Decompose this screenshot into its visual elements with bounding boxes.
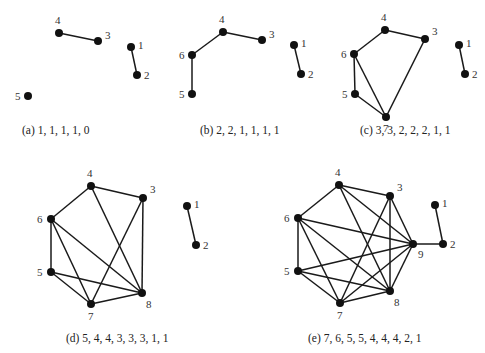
edges [298, 185, 443, 303]
vertex-label: 3 [105, 29, 111, 41]
edge-3-7 [340, 196, 390, 303]
vertex-label: 2 [144, 69, 150, 81]
vertex-7 [87, 300, 95, 308]
vertex-label: 4 [219, 13, 225, 25]
vertex-label: 6 [37, 213, 43, 225]
edge-4-8 [91, 186, 142, 293]
edge-3-7 [386, 39, 425, 117]
edge-1-2 [459, 45, 465, 74]
edge-6-5 [354, 54, 355, 94]
vertex-1 [455, 41, 463, 49]
vertex-9 [409, 240, 417, 248]
vertex-1 [290, 41, 298, 49]
vertex-6 [350, 50, 358, 58]
vertex-label: 9 [418, 248, 424, 260]
edges [354, 30, 465, 117]
vertex-label: 4 [381, 11, 387, 23]
edge-4-8 [339, 185, 390, 291]
vertex-label: 8 [394, 296, 400, 308]
vertex-5 [294, 267, 302, 275]
vertex-label: 3 [269, 28, 275, 40]
edge-4-3 [385, 30, 425, 39]
vertex-label: 4 [87, 167, 93, 179]
edge-3-9 [390, 196, 413, 244]
edge-1-2 [294, 45, 301, 74]
vertex-label: 5 [179, 88, 185, 100]
vertex-3 [139, 194, 147, 202]
edges [51, 186, 196, 304]
vertex-label: 5 [284, 265, 290, 277]
edge-4-6 [298, 185, 339, 218]
vertex-label: 2 [308, 68, 314, 80]
edge-4-6 [354, 30, 385, 54]
edge-6-7 [354, 54, 386, 117]
edge-4-3 [223, 32, 262, 40]
vertex-6 [294, 214, 302, 222]
vertex-2 [297, 70, 305, 78]
vertex-label: 5 [37, 266, 43, 278]
vertex-2 [133, 71, 141, 79]
vertex-8 [138, 289, 146, 297]
edge-6-7 [51, 219, 91, 304]
edge-4-3 [91, 186, 143, 198]
edges [192, 32, 301, 94]
vertex-1 [127, 43, 135, 51]
panel-caption: (e) 7, 6, 5, 5, 4, 4, 4, 2, 1 [308, 332, 422, 345]
vertex-label: 2 [472, 68, 478, 80]
edge-5-7 [355, 94, 386, 117]
vertex-label: 7 [337, 309, 343, 321]
vertex-label: 5 [15, 90, 21, 102]
vertex-3 [94, 37, 102, 45]
vertex-5 [351, 90, 359, 98]
vertex-label: 4 [55, 14, 61, 26]
vertex-4 [55, 29, 63, 37]
nodes: 43125 [15, 14, 150, 102]
edge-8-9 [390, 244, 413, 291]
edge-4-6 [51, 186, 91, 219]
vertex-3 [258, 36, 266, 44]
panel-e: 436578912 (e) 7, 6, 5, 5, 4, 4, 4, 2, 1 [284, 166, 456, 345]
vertex-4 [219, 28, 227, 36]
panel-d: 43657812 (d) 5, 4, 4, 3, 3, 3, 1, 1 [37, 167, 209, 345]
edge-1-2 [187, 206, 196, 245]
vertex-label: 6 [284, 212, 290, 224]
vertex-label: 6 [179, 49, 185, 61]
vertex-4 [381, 26, 389, 34]
vertex-2 [461, 70, 469, 78]
vertex-1 [431, 201, 439, 209]
nodes: 4365712 [341, 11, 478, 134]
vertex-label: 3 [432, 25, 438, 37]
vertex-label: 3 [150, 183, 156, 195]
panel-caption: (c) 3, 3, 2, 2, 2, 1, 1 [360, 124, 451, 137]
panel-caption: (d) 5, 4, 4, 3, 3, 3, 1, 1 [66, 332, 169, 345]
vertex-label: 6 [341, 48, 347, 60]
vertex-label: 3 [397, 181, 403, 193]
edge-4-3 [59, 33, 98, 41]
vertex-label: 5 [342, 88, 348, 100]
panel-caption: (b) 2, 2, 1, 1, 1, 1 [200, 124, 280, 137]
vertex-label: 4 [335, 166, 341, 178]
vertex-3 [386, 192, 394, 200]
edge-1-2 [435, 205, 443, 244]
vertex-label: 1 [466, 37, 472, 49]
vertex-6 [47, 215, 55, 223]
panel-caption: (a) 1, 1, 1, 1, 0 [22, 124, 90, 137]
vertex-5 [24, 92, 32, 100]
vertex-label: 1 [301, 37, 307, 49]
nodes: 436512 [179, 13, 314, 100]
panel-b: 436512 (b) 2, 2, 1, 1, 1, 1 [179, 13, 314, 137]
vertex-label: 1 [442, 197, 448, 209]
vertex-3 [421, 35, 429, 43]
vertex-label: 1 [194, 198, 200, 210]
vertex-2 [439, 240, 447, 248]
vertex-label: 2 [203, 239, 209, 251]
vertex-7 [382, 113, 390, 121]
edge-3-8 [142, 198, 143, 293]
edge-6-7 [298, 218, 340, 303]
vertex-label: 7 [88, 310, 94, 322]
vertex-label: 8 [146, 298, 152, 310]
vertex-7 [336, 299, 344, 307]
edge-1-2 [131, 47, 137, 75]
vertex-1 [183, 202, 191, 210]
graph-sequence-figure: 43125 (a) 1, 1, 1, 1, 0 436512 (b) 2, 2,… [0, 0, 485, 353]
